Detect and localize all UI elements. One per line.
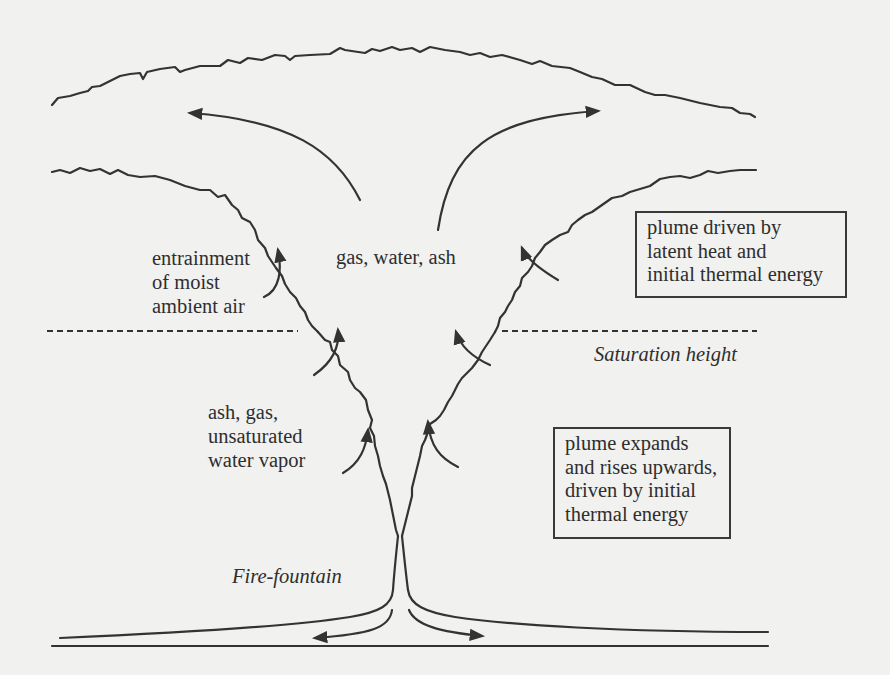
- lateral-flow-arrow-right: [409, 610, 482, 636]
- entrainment-arrow-low-right: [428, 422, 458, 467]
- annotation-box-latent-heat: plume driven by latent heat and initial …: [635, 211, 847, 298]
- label-fire-fountain: Fire-fountain: [232, 565, 342, 588]
- lateral-flow-arrow-left: [315, 610, 392, 638]
- fire-fountain-right-stem: [402, 536, 768, 632]
- entrainment-arrow-upper-left: [264, 250, 280, 297]
- plume-diagram-graphic: [0, 0, 890, 675]
- label-entrainment: entrainment of moist ambient air: [152, 246, 250, 318]
- diagram-canvas: gas, water, ash entrainment of moist amb…: [0, 0, 890, 675]
- label-ash-gas-vapor: ash, gas, unsaturated water vapor: [208, 400, 305, 472]
- annotation-box-initial-thermal: plume expands and rises upwards, driven …: [553, 427, 731, 539]
- fire-fountain-left-stem: [60, 536, 398, 638]
- outflow-arrow-left: [190, 113, 360, 200]
- label-gas-water-ash: gas, water, ash: [336, 246, 456, 269]
- plume-left-lower-edge: [318, 332, 398, 536]
- entrainment-arrow-low-left: [343, 430, 368, 473]
- umbrella-cloud-top-outline: [52, 47, 755, 117]
- plume-right-lower-edge: [402, 332, 495, 536]
- label-saturation-height: Saturation height: [594, 343, 737, 366]
- outflow-arrow-right: [438, 111, 598, 230]
- entrainment-arrow-mid-left: [314, 330, 338, 375]
